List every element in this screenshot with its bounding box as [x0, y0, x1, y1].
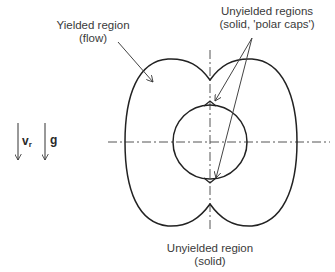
yielded-label-line1: Yielded region: [50, 19, 136, 32]
g-symbol: g: [50, 133, 57, 147]
caps-label-line1: Unyielded regions: [207, 5, 327, 18]
caps-label-line2: (solid, 'polar caps'): [207, 18, 327, 31]
yielded-region-label: Yielded region (flow): [50, 19, 136, 45]
top-cap-pointer-arrow: [215, 38, 252, 101]
bottom-label-line2: (solid): [162, 255, 258, 268]
unyielded-bottom-label: Unyielded region (solid): [162, 242, 258, 268]
yielded-label-line2: (flow): [50, 32, 136, 45]
unyielded-caps-label: Unyielded regions (solid, 'polar caps'): [207, 5, 327, 31]
vr-symbol: vr: [22, 134, 32, 149]
bottom-label-line1: Unyielded region: [162, 242, 258, 255]
yielded-pointer-arrow: [118, 42, 153, 82]
bottom-cap-pointer-arrow: [216, 38, 252, 178]
